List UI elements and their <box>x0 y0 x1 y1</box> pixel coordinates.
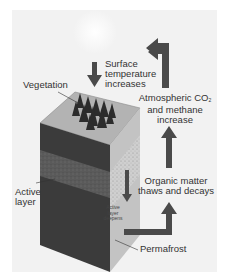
atmos-line3: increase <box>134 115 216 125</box>
deepens-line3: deepens <box>99 216 127 222</box>
vegetation-label: Vegetation <box>23 80 68 90</box>
active-layer-line2: layer <box>15 197 41 207</box>
permafrost-diagram: Vegetation Surface temperature increases… <box>0 0 231 277</box>
block-front-face <box>40 123 110 272</box>
atmospheric-label: Atmospheric CO2 and methane increase <box>134 93 216 125</box>
permafrost-label: Permafrost <box>140 244 186 254</box>
surface-temp-arrow-icon <box>87 62 102 87</box>
organic-line2: thaws and decays <box>134 186 218 196</box>
diagram-graphics <box>0 0 231 277</box>
organic-matter-label: Organic matter thaws and decays <box>134 176 218 196</box>
active-layer-deepens-label: Active layer deepens <box>99 205 127 222</box>
sun-icon <box>73 10 117 54</box>
surface-temp-line3: increases <box>105 79 156 89</box>
organic-up-arrow-icon <box>161 126 177 168</box>
surface-temp-label: Surface temperature increases <box>105 59 156 89</box>
active-layer-label: Active layer <box>15 187 41 207</box>
